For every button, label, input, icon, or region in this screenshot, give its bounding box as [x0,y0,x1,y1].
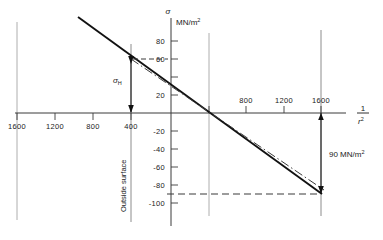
y-tick-label-m40: -40 [153,145,165,154]
stress-distribution-figure: σ MN/m2 80 60 20 -20 -40 -60 -80 -100 16… [0,0,383,240]
x-axis-numerator: 1 [361,104,366,113]
y-axis-units-sup: 2 [197,17,200,23]
x-axis-den-sup: 2 [361,116,364,122]
y-axis-units-text: MN/m [176,18,198,27]
x-tick-label-right-1200: 1200 [275,96,293,105]
chart-svg: σ MN/m2 80 60 20 -20 -40 -60 -80 -100 16… [0,0,383,240]
y-tick-label-m100: -100 [149,199,165,208]
y-tick-label-80: 80 [156,37,165,46]
sigma-h-sub: H [118,80,122,86]
y-tick-label-m80: -80 [153,181,165,190]
y-tick-label-m20: -20 [153,127,165,136]
ninety-arrow-head-top [318,113,324,120]
x-tick-label-right-800: 800 [239,96,252,105]
x-tick-label-left-400: 400 [124,122,137,131]
ninety-mn-sup: 2 [361,149,364,155]
x-tick-label-left-1600: 1600 [8,122,26,131]
y-tick-label-20: 20 [156,91,165,100]
y-tick-label-60: 60 [156,55,165,64]
sigma-h-label: σH [113,76,122,86]
ninety-mn-text: 90 MN/m [329,150,362,159]
x-tick-label-left-800: 800 [86,122,99,131]
y-tick-label-m60: -60 [153,163,165,172]
ninety-mn-label: 90 MN/m2 [329,149,365,159]
x-tick-label-left-1200: 1200 [46,122,64,131]
x-tick-label-right-1600: 1600 [312,96,330,105]
y-axis-units: MN/m2 [176,17,200,27]
outside-surface-label: Outside surface [119,159,128,212]
y-axis-symbol: σ [166,7,172,16]
x-axis-denominator: r2 [358,116,364,126]
sigma-h-arrow-head-bottom [128,105,134,113]
